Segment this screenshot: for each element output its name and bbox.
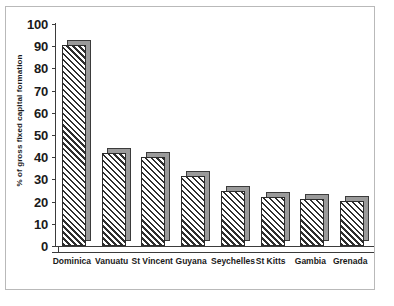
bar-face bbox=[340, 201, 364, 247]
bar[interactable] bbox=[141, 157, 165, 246]
bar-face bbox=[102, 153, 126, 246]
bar[interactable] bbox=[221, 191, 245, 247]
x-tick-label: Dominica bbox=[52, 256, 92, 266]
bar-face bbox=[181, 176, 205, 246]
y-tick-label: 20 bbox=[0, 196, 48, 209]
y-tick-label: 0 bbox=[0, 240, 48, 253]
bar[interactable] bbox=[261, 197, 285, 246]
bar-face bbox=[300, 199, 324, 246]
y-tick-label: 60 bbox=[0, 107, 48, 120]
x-tick-label: St Kitts bbox=[251, 256, 291, 266]
bar[interactable] bbox=[62, 45, 86, 246]
bar-slot bbox=[56, 24, 96, 246]
y-tick-label: 70 bbox=[0, 85, 48, 98]
bar-slot bbox=[96, 24, 136, 246]
bar-slot bbox=[215, 24, 255, 246]
bar-slot bbox=[175, 24, 215, 246]
bar-slot bbox=[295, 24, 335, 246]
bar-face bbox=[141, 157, 165, 246]
y-tick-label: 30 bbox=[0, 173, 48, 186]
y-tick-label: 80 bbox=[0, 62, 48, 75]
y-tick-label: 50 bbox=[0, 129, 48, 142]
bar[interactable] bbox=[102, 153, 126, 246]
x-tick-label: Gambia bbox=[291, 256, 331, 266]
y-tick-label: 40 bbox=[0, 151, 48, 164]
chart-figure: 1009080706050403020100 % of gross fixed … bbox=[0, 0, 394, 306]
bar[interactable] bbox=[300, 199, 324, 246]
y-axis-title: % of gross fixed capital formation bbox=[15, 26, 24, 216]
x-tick-label: Vanuatu bbox=[92, 256, 132, 266]
bar-slot bbox=[334, 24, 374, 246]
plot-area bbox=[56, 24, 374, 246]
bar-slot bbox=[136, 24, 176, 246]
y-axis-ticks: 1009080706050403020100 bbox=[0, 0, 52, 306]
bar[interactable] bbox=[340, 201, 364, 247]
bar-face bbox=[221, 191, 245, 247]
y-tick-label: 10 bbox=[0, 218, 48, 231]
x-axis-baseline bbox=[52, 246, 374, 253]
bar[interactable] bbox=[181, 176, 205, 246]
x-axis-labels: DominicaVanuatuSt VincentGuyanaSeychelle… bbox=[56, 256, 374, 276]
y-tick-label: 90 bbox=[0, 40, 48, 53]
bar-face bbox=[62, 45, 86, 246]
x-tick-label: St Vincent bbox=[132, 256, 172, 266]
x-tick-label: Guyana bbox=[171, 256, 211, 266]
bar-face bbox=[261, 197, 285, 246]
bar-slot bbox=[255, 24, 295, 246]
y-tick-label: 100 bbox=[0, 18, 48, 31]
x-tick-label: Grenada bbox=[330, 256, 370, 266]
x-tick-label: Seychelles bbox=[211, 256, 251, 266]
